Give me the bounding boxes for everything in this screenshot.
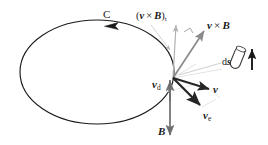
loop-direction-arrowhead — [105, 23, 119, 30]
velocity-label: v — [213, 84, 218, 95]
drift-velocity-label: vd — [152, 79, 161, 92]
right-angle-marker — [184, 28, 193, 33]
tangential-v-cross-B-label: (v × B)t — [136, 11, 167, 23]
ds-cylinder-glyph — [229, 45, 252, 70]
magnetic-field-label: B — [158, 126, 165, 137]
v-cross-B-label: v × B — [207, 20, 230, 31]
figure-root: C (v × B)t v × B ds vd v ve B — [0, 0, 268, 145]
closed-circuit-loop — [20, 20, 174, 124]
parallelogram-edge-ve — [202, 99, 216, 107]
loop-ellipse — [20, 20, 174, 124]
line-element-ds-label: ds — [222, 57, 231, 67]
v-cross-B-vector — [173, 31, 204, 78]
element-velocity-label: ve — [203, 110, 211, 123]
guide-lines — [151, 25, 222, 107]
curve-label-C: C — [103, 9, 110, 20]
